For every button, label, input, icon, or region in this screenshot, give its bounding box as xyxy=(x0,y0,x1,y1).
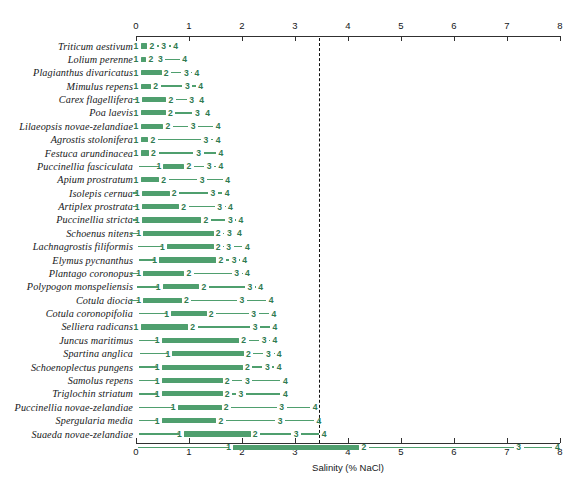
range-marker-4: 4 xyxy=(234,227,244,239)
range-marker-4: 4 xyxy=(266,294,276,306)
species-range-row: 1234 xyxy=(0,120,586,132)
range-segment-3-4 xyxy=(287,407,310,408)
range-marker-4: 4 xyxy=(223,174,233,186)
range-marker-2: 2 xyxy=(179,201,189,213)
range-marker-4: 4 xyxy=(216,160,226,172)
range-marker-4: 4 xyxy=(216,147,226,159)
species-range-row: 1234 xyxy=(0,254,586,266)
range-marker-3: 3 xyxy=(291,428,301,440)
range-marker-3: 3 xyxy=(208,187,218,199)
species-range-row: 1234 xyxy=(0,281,586,293)
range-marker-2: 2 xyxy=(161,67,171,79)
range-marker-4: 4 xyxy=(225,201,235,213)
range-segment-2-3 xyxy=(260,433,291,434)
range-segment-lead xyxy=(138,447,229,448)
range-marker-1: 1 xyxy=(162,308,172,320)
range-marker-3: 3 xyxy=(197,174,207,186)
range-marker-1: 1 xyxy=(153,281,163,293)
range-marker-1: 1 xyxy=(152,361,162,373)
range-segment-3-4 xyxy=(285,420,314,421)
species-range-row: 1234 xyxy=(0,227,586,239)
range-segment-1-2 xyxy=(142,204,180,209)
range-marker-1: 1 xyxy=(134,227,144,239)
range-marker-2: 2 xyxy=(243,348,253,360)
range-marker-4: 4 xyxy=(256,281,266,293)
range-marker-3: 3 xyxy=(224,241,234,253)
range-marker-1: 1 xyxy=(163,348,173,360)
range-segment-2-3 xyxy=(209,286,245,287)
species-range-row: 1234 xyxy=(0,361,586,373)
range-marker-3: 3 xyxy=(237,294,247,306)
species-range-row: 1234 xyxy=(0,267,586,279)
x-tick-label-top: 7 xyxy=(497,20,517,31)
range-segment-3-4 xyxy=(259,313,269,314)
range-segment-2-3 xyxy=(169,179,198,180)
range-marker-2: 2 xyxy=(250,428,260,440)
range-marker-2: 2 xyxy=(188,321,198,333)
species-range-row: 1234 xyxy=(0,174,586,186)
x-tick-label-top: 1 xyxy=(179,20,199,31)
range-marker-4: 4 xyxy=(269,308,279,320)
range-segment-1-2 xyxy=(143,298,182,303)
range-marker-1: 1 xyxy=(131,174,141,186)
range-marker-2: 2 xyxy=(169,187,179,199)
species-range-row: 1234 xyxy=(0,80,586,92)
range-segment-2-3 xyxy=(189,206,215,207)
range-marker-4: 4 xyxy=(192,67,202,79)
range-marker-2: 2 xyxy=(184,267,194,279)
range-marker-3: 3 xyxy=(215,201,225,213)
range-segment-2-3 xyxy=(252,366,262,367)
x-tick-label-top: 8 xyxy=(550,20,570,31)
range-segment-1-2 xyxy=(163,284,200,289)
range-segment-2-3 xyxy=(175,112,192,113)
species-range-row: 1234 xyxy=(0,107,586,119)
range-marker-4: 4 xyxy=(236,214,246,226)
range-marker-4: 4 xyxy=(196,80,206,92)
range-marker-2: 2 xyxy=(163,120,173,132)
range-segment-2-3 xyxy=(253,353,263,354)
species-range-row: 1234 xyxy=(0,40,586,52)
range-segment-1-2 xyxy=(141,124,164,129)
range-marker-2: 2 xyxy=(184,160,194,172)
range-marker-3: 3 xyxy=(182,80,192,92)
range-segment-1-2 xyxy=(142,191,170,196)
range-marker-2: 2 xyxy=(148,147,158,159)
range-segment-1-2 xyxy=(143,271,184,276)
range-segment-2-3 xyxy=(194,273,232,274)
range-marker-3: 3 xyxy=(275,415,285,427)
range-segment-1-2 xyxy=(171,311,207,316)
range-segment-3-4 xyxy=(246,393,280,394)
range-marker-2: 2 xyxy=(359,441,369,453)
range-marker-2: 2 xyxy=(166,94,176,106)
x-tick-label-top: 5 xyxy=(391,20,411,31)
species-range-row: 1234 xyxy=(0,415,586,427)
plot-area: 0011223344556677881234123412341234123412… xyxy=(0,0,586,493)
range-segment-3-4 xyxy=(234,246,242,247)
range-segment-1-2 xyxy=(142,97,167,102)
range-marker-3: 3 xyxy=(192,107,202,119)
range-marker-4: 4 xyxy=(240,254,250,266)
range-marker-1: 1 xyxy=(131,67,141,79)
range-marker-1: 1 xyxy=(134,267,144,279)
range-marker-1: 1 xyxy=(132,187,142,199)
range-marker-3: 3 xyxy=(224,227,234,239)
range-segment-2-3 xyxy=(211,219,225,220)
range-segment-3-4 xyxy=(207,179,222,180)
range-segment-1-2 xyxy=(141,110,166,115)
range-marker-1: 1 xyxy=(150,254,160,266)
range-segment-2-3 xyxy=(216,313,248,314)
range-marker-3: 3 xyxy=(188,120,198,132)
range-segment-lead xyxy=(139,433,180,434)
range-marker-3: 3 xyxy=(259,334,269,346)
range-marker-4: 4 xyxy=(314,415,324,427)
range-marker-3: 3 xyxy=(194,147,204,159)
range-segment-2-3 xyxy=(249,340,260,341)
range-segment-1-2 xyxy=(143,231,213,236)
range-marker-1: 1 xyxy=(131,147,141,159)
range-marker-1: 1 xyxy=(174,428,184,440)
range-segment-2-3 xyxy=(226,420,275,421)
range-marker-1: 1 xyxy=(131,120,141,132)
species-range-row: 1234 xyxy=(0,428,586,440)
range-marker-3: 3 xyxy=(225,214,235,226)
range-marker-2: 2 xyxy=(216,415,226,427)
